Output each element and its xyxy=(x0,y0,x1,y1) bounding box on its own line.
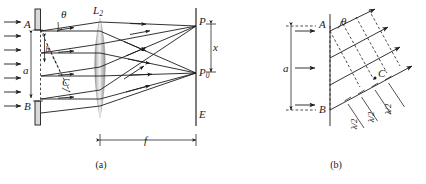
construction-dashes-a xyxy=(41,30,71,101)
half-wave-label-3: λ/2 xyxy=(383,103,393,115)
svg-text:λ/2: λ/2 xyxy=(366,111,376,123)
label-aperture-b: a xyxy=(283,62,289,74)
incoming-rays-b xyxy=(295,31,315,105)
point-C-marker-b xyxy=(374,77,377,80)
ray-bundle-a xyxy=(41,22,196,113)
label-point-B-b: B xyxy=(319,103,326,115)
point-C-tick-a xyxy=(62,88,70,92)
figure-canvas: a b A B C θ xyxy=(0,0,426,184)
label-screen-E: E xyxy=(198,108,206,120)
label-point-A-a: A xyxy=(23,18,31,30)
label-angle-theta-a: θ xyxy=(61,8,67,20)
label-offset-x: x xyxy=(212,41,218,53)
panel-b: a A B θ xyxy=(283,9,412,171)
svg-text:λ/2: λ/2 xyxy=(383,103,393,115)
label-lens-L2: L2 xyxy=(92,4,103,18)
label-point-C-a: C xyxy=(62,76,70,88)
label-point-P: P xyxy=(198,15,206,27)
label-point-A-b: A xyxy=(318,18,326,30)
incoming-rays-a xyxy=(4,22,21,106)
label-point-B-a: B xyxy=(24,100,31,112)
physics-figure: a b A B C θ xyxy=(0,0,426,184)
slit-plate-a xyxy=(33,9,43,125)
caption-panel-b: (b) xyxy=(330,159,342,171)
focal-length-dimension-f xyxy=(100,134,196,146)
label-aperture-a: a xyxy=(23,64,29,76)
svg-text:λ/2: λ/2 xyxy=(349,118,359,130)
label-point-C-b: C xyxy=(378,67,386,79)
caption-panel-a: (a) xyxy=(95,159,106,171)
half-wave-label-1: λ/2 xyxy=(349,118,359,130)
label-point-P0: P0 xyxy=(198,66,210,80)
panel-a: a b A B C θ xyxy=(4,4,218,171)
half-wave-label-2: λ/2 xyxy=(366,111,376,123)
